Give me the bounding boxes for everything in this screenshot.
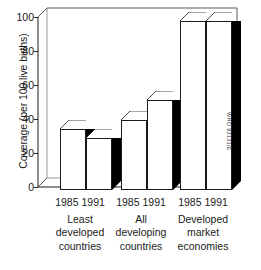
bar-front-face bbox=[180, 21, 206, 190]
bar-front-face bbox=[147, 100, 173, 190]
x-category-line-2: market bbox=[160, 226, 246, 240]
bar-top-outline bbox=[60, 120, 86, 129]
bar-all-developing-1985 bbox=[121, 120, 147, 190]
y-tick-label-80: 80 bbox=[10, 46, 34, 56]
bar-chart-figure: Coverage (per 100 live births) 100 80 60… bbox=[0, 0, 261, 270]
bar-developed-market-1985 bbox=[180, 21, 206, 190]
y-tick-label-40: 40 bbox=[10, 114, 34, 124]
x-year-1985: 1985 bbox=[116, 196, 139, 210]
bar-all-developing-1991 bbox=[147, 100, 173, 190]
plot-area bbox=[38, 8, 238, 190]
bar-front-face bbox=[121, 120, 147, 190]
y-axis-tick-labels: 100 80 60 40 20 0 bbox=[8, 0, 34, 200]
x-year-1985: 1985 bbox=[55, 196, 78, 210]
bar-series bbox=[38, 8, 238, 190]
bar-top-outline bbox=[121, 111, 147, 120]
y-tick-label-0: 0 bbox=[10, 182, 34, 192]
bar-front-face bbox=[86, 138, 112, 190]
x-group-category: Developed market economies bbox=[160, 213, 246, 254]
x-group-developed-market: 19851991 Developed market economies bbox=[160, 196, 246, 253]
bar-front-face bbox=[60, 129, 86, 190]
x-category-line-3: economies bbox=[160, 240, 246, 254]
x-year-1991: 1991 bbox=[205, 196, 228, 210]
bar-top-outline bbox=[86, 129, 112, 138]
y-tick-label-60: 60 bbox=[10, 80, 34, 90]
bar-top-outline bbox=[206, 12, 232, 21]
y-tick-label-100: 100 bbox=[10, 12, 34, 22]
y-tick-label-20: 20 bbox=[10, 148, 34, 158]
bar-side-face bbox=[232, 21, 241, 190]
x-category-line-1: Developed bbox=[160, 213, 246, 227]
bar-least-developed-1985 bbox=[60, 129, 86, 190]
source-credit: WHO 93131/E bbox=[226, 112, 232, 172]
bar-top-outline bbox=[147, 91, 173, 100]
x-group-years: 19851991 bbox=[160, 196, 246, 210]
bar-side-face bbox=[112, 138, 121, 190]
bar-top-outline bbox=[180, 12, 206, 21]
x-year-1985: 1985 bbox=[178, 196, 201, 210]
bar-least-developed-1991 bbox=[86, 138, 112, 190]
